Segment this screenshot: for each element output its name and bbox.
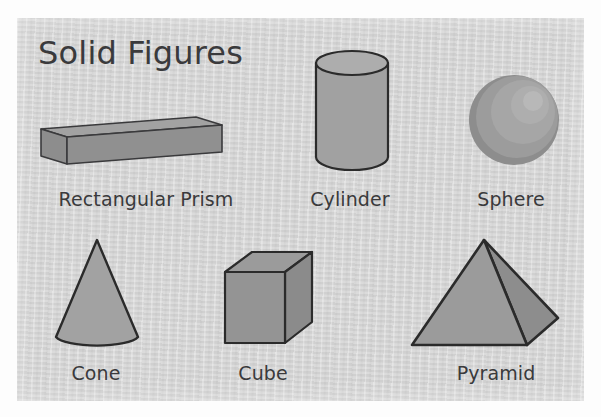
sphere-figure — [466, 72, 562, 168]
pyramid-icon — [408, 236, 564, 352]
cylinder-icon — [313, 50, 393, 176]
cube-figure — [220, 250, 320, 350]
sphere-icon — [466, 72, 562, 168]
solid-figures-poster: Solid Figures Rectangular Prism Cylinder — [0, 0, 601, 417]
cylinder-figure — [313, 50, 393, 176]
cone-icon — [52, 236, 144, 352]
sphere-label: Sphere — [477, 188, 545, 210]
cube-label: Cube — [238, 362, 287, 384]
cylinder-label: Cylinder — [310, 188, 389, 210]
rectangular-prism-label: Rectangular Prism — [59, 188, 234, 210]
page-title: Solid Figures — [38, 34, 243, 72]
pyramid-figure — [408, 236, 564, 352]
cube-icon — [220, 250, 320, 350]
cone-figure — [52, 236, 144, 352]
rectangular-prism-icon — [30, 108, 240, 178]
rectangular-prism-figure — [30, 108, 240, 178]
pyramid-label: Pyramid — [457, 362, 536, 384]
cone-label: Cone — [71, 362, 120, 384]
